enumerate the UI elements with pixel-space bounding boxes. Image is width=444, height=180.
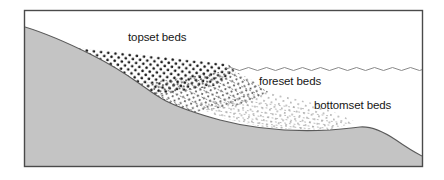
foreset-beds-label: foreset beds <box>259 75 321 88</box>
delta-cross-section-figure: topset beds foreset beds bottomset beds <box>0 0 444 180</box>
bottomset-beds-label: bottomset beds <box>314 99 391 112</box>
delta-diagram-canvas <box>0 0 444 180</box>
topset-beds-label: topset beds <box>128 31 186 44</box>
